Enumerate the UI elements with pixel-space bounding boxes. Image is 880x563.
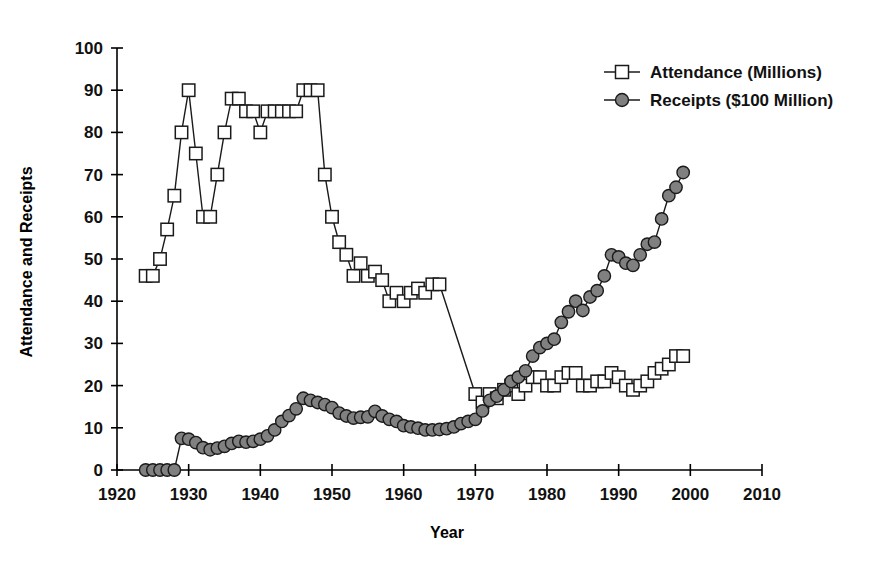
data-point	[677, 166, 689, 178]
data-point	[591, 284, 603, 296]
data-point	[569, 367, 581, 379]
data-point	[670, 181, 682, 193]
data-point	[168, 190, 180, 202]
data-point	[154, 253, 166, 265]
data-point	[354, 257, 366, 269]
x-tick-label-1970: 1970	[456, 485, 494, 504]
data-point	[247, 105, 259, 117]
data-point	[168, 464, 180, 476]
y-tick-label-0: 0	[94, 461, 103, 480]
y-tick-label-70: 70	[84, 166, 103, 185]
data-point	[311, 84, 323, 96]
x-tick-label-1960: 1960	[385, 485, 423, 504]
y-tick-label-90: 90	[84, 81, 103, 100]
y-tick-label-40: 40	[84, 292, 103, 311]
y-tick-label-10: 10	[84, 419, 103, 438]
data-point	[211, 168, 223, 180]
x-tick-label-1930: 1930	[170, 485, 208, 504]
data-point	[598, 270, 610, 282]
data-point	[677, 350, 689, 362]
x-tick-label-2010: 2010	[743, 485, 781, 504]
data-point	[233, 92, 245, 104]
y-tick-label-50: 50	[84, 250, 103, 269]
data-point	[190, 147, 202, 159]
data-point	[648, 236, 660, 248]
data-point	[161, 223, 173, 235]
data-point	[340, 249, 352, 261]
x-tick-label-2000: 2000	[671, 485, 709, 504]
data-point	[319, 168, 331, 180]
y-tick-label-100: 100	[75, 39, 103, 58]
data-point	[147, 270, 159, 282]
data-point	[204, 211, 216, 223]
y-tick-label-60: 60	[84, 208, 103, 227]
data-point	[175, 126, 187, 138]
data-point	[548, 333, 560, 345]
data-point	[218, 126, 230, 138]
data-point	[182, 84, 194, 96]
data-point	[655, 213, 667, 225]
legend-swatch-attendance	[616, 66, 629, 79]
data-point	[433, 278, 445, 290]
line-chart: 0102030405060708090100 19201930194019501…	[0, 0, 880, 563]
data-point	[326, 211, 338, 223]
y-axis-title: Attendance and Receipts	[18, 166, 35, 357]
data-point	[577, 304, 589, 316]
y-tick-label-20: 20	[84, 377, 103, 396]
data-point	[290, 105, 302, 117]
y-tick-label-80: 80	[84, 123, 103, 142]
legend-label-1: Receipts ($100 Million)	[650, 91, 833, 110]
data-point	[376, 274, 388, 286]
x-axis-title: Year	[430, 524, 464, 541]
legend-swatch-receipts	[616, 94, 629, 107]
x-tick-label-1940: 1940	[241, 485, 279, 504]
x-tick-label-1980: 1980	[528, 485, 566, 504]
x-tick-label-1950: 1950	[313, 485, 351, 504]
x-tick-label-1920: 1920	[98, 485, 136, 504]
data-point	[254, 126, 266, 138]
data-point	[333, 236, 345, 248]
legend-label-0: Attendance (Millions)	[650, 63, 822, 82]
y-tick-label-30: 30	[84, 334, 103, 353]
x-tick-label-1990: 1990	[600, 485, 638, 504]
chart-container: 0102030405060708090100 19201930194019501…	[0, 0, 880, 563]
data-point	[519, 365, 531, 377]
data-point	[347, 270, 359, 282]
